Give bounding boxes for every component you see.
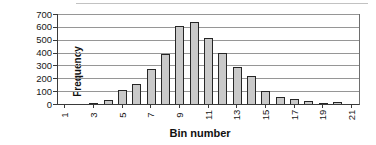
bar-bin-6 [132,84,141,104]
x-tick-mark [208,105,209,108]
bar-bin-17 [290,99,299,104]
x-tick-label-11: 11 [201,106,215,124]
plot-area: Frequency [57,14,360,105]
y-tick-mark [53,91,57,92]
x-tick-label-1: 1 [57,106,71,124]
gridline-600 [58,27,359,28]
bar-bin-18 [304,101,313,104]
x-tick-mark [150,105,151,108]
bar-bin-9 [175,26,184,104]
bar-bin-11 [204,38,213,104]
y-tick-mark [53,53,57,54]
bar-bin-3 [89,103,98,104]
bar-bin-19 [319,103,328,104]
x-axis-title: Bin number [140,126,260,140]
bar-bin-13 [233,67,242,104]
bar-bin-15 [261,91,270,104]
y-tick-mark [53,104,57,105]
bar-bin-5 [118,90,127,104]
chart-top-border-line [76,3,368,4]
bar-bin-10 [190,22,199,104]
bar-bin-12 [218,53,227,104]
y-tick-label-700: 700 [28,9,52,20]
x-tick-mark [265,105,266,108]
bar-bin-8 [161,54,170,104]
y-tick-label-300: 300 [28,60,52,71]
gridline-700 [58,14,359,15]
y-tick-mark [53,27,57,28]
x-tick-label-9: 9 [172,106,186,124]
y-tick-mark [53,40,57,41]
bar-bin-20 [333,102,342,104]
x-tick-mark [236,105,237,108]
x-tick-label-15: 15 [258,106,272,124]
x-tick-label-13: 13 [229,106,243,124]
y-tick-mark [53,14,57,15]
y-tick-mark [53,65,57,66]
bar-bin-16 [276,97,285,104]
x-tick-mark [93,105,94,108]
x-tick-mark [64,105,65,108]
x-tick-label-5: 5 [115,106,129,124]
y-tick-label-100: 100 [28,86,52,97]
x-tick-mark [351,105,352,108]
y-tick-label-600: 600 [28,21,52,32]
y-tick-label-200: 200 [28,73,52,84]
bar-bin-4 [104,100,113,104]
x-tick-label-3: 3 [86,106,100,124]
x-tick-label-19: 19 [315,106,329,124]
y-tick-label-0: 0 [28,99,52,110]
x-tick-label-21: 21 [344,106,358,124]
x-tick-label-7: 7 [143,106,157,124]
x-tick-mark [122,105,123,108]
x-tick-mark [322,105,323,108]
histogram-chart: Frequency 0100200300400500600700 1357911… [0,0,376,145]
bar-bin-14 [247,76,256,104]
y-tick-label-500: 500 [28,34,52,45]
bar-bin-7 [147,69,156,104]
y-tick-label-400: 400 [28,47,52,58]
x-tick-mark [179,105,180,108]
x-tick-label-17: 17 [287,106,301,124]
x-tick-mark [294,105,295,108]
y-tick-mark [53,78,57,79]
